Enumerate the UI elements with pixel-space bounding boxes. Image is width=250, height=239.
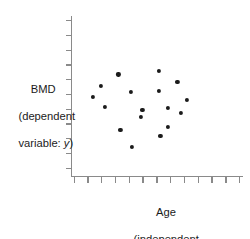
y-axis-label-line-3-suffix: ) xyxy=(69,137,73,149)
data-point xyxy=(103,105,107,109)
data-point xyxy=(165,125,169,129)
y-axis-tick xyxy=(66,50,72,51)
y-axis-tick xyxy=(66,35,72,36)
y-axis-label-line-1: BMD xyxy=(31,83,56,95)
data-point xyxy=(185,98,189,102)
x-axis-tick xyxy=(129,177,130,183)
data-point xyxy=(91,95,95,99)
data-point xyxy=(140,108,144,112)
x-axis-tick xyxy=(225,177,226,183)
y-axis-tick xyxy=(66,20,72,21)
x-axis-tick xyxy=(156,177,157,183)
data-point xyxy=(130,145,134,149)
data-point xyxy=(139,115,143,119)
scatter-plot-figure: BMD (dependent variable: y) Age (indepen… xyxy=(0,0,250,239)
x-axis-tick xyxy=(142,177,143,183)
x-axis-tick xyxy=(239,177,240,183)
y-axis-label-line-2: (dependent xyxy=(18,110,75,122)
x-axis-tick xyxy=(74,177,75,183)
y-axis-tick xyxy=(66,64,72,65)
x-axis-label-line-2: (independent xyxy=(134,233,199,239)
data-point xyxy=(116,72,120,76)
data-point xyxy=(175,80,179,84)
y-axis-label: BMD (dependent variable: y) xyxy=(6,69,68,164)
data-point xyxy=(118,128,122,132)
x-axis-tick xyxy=(87,177,88,183)
data-point xyxy=(158,134,162,138)
data-point xyxy=(99,84,103,88)
x-axis-tick xyxy=(184,177,185,183)
x-axis-tick xyxy=(101,177,102,183)
y-axis-tick xyxy=(66,168,72,169)
data-point xyxy=(179,111,183,115)
x-axis-label: Age (independent variable: x) xyxy=(95,192,225,239)
x-axis-label-line-1: Age xyxy=(156,206,176,218)
data-point xyxy=(165,106,169,110)
x-axis-tick xyxy=(211,177,212,183)
y-axis-label-line-3-prefix: variable: xyxy=(18,137,63,149)
data-point xyxy=(157,89,161,93)
x-axis-tick xyxy=(198,177,199,183)
data-point xyxy=(157,69,161,73)
x-axis-tick xyxy=(170,177,171,183)
data-point xyxy=(129,90,133,94)
x-axis-tick xyxy=(115,177,116,183)
